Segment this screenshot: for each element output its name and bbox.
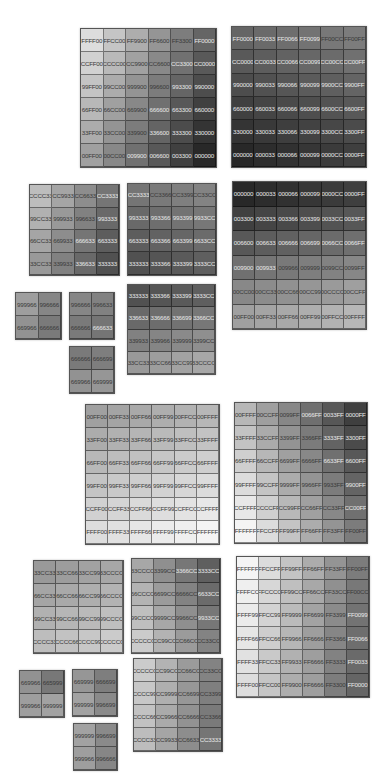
color-swatch: FF0033 — [347, 650, 369, 673]
color-swatch: FF3333 — [325, 650, 347, 673]
color-swatch: 99FFFF — [197, 474, 219, 497]
color-swatch: 3300CC — [321, 120, 343, 143]
color-swatch: 99FF66 — [130, 474, 152, 497]
color-swatch: FFFFFF — [197, 521, 219, 544]
color-swatch: 0000FF — [344, 144, 366, 167]
color-swatch: 6666FF — [301, 450, 323, 473]
color-swatch: 336633 — [128, 307, 150, 329]
color-swatch: CC3300 — [171, 52, 194, 75]
color-swatch: 66CC00 — [104, 98, 127, 121]
color-swatch: FF33FF — [323, 520, 345, 543]
color-swatch: CCFF00 — [86, 498, 108, 521]
color-swatch: 993333 — [97, 208, 119, 231]
color-swatch: 0066FF — [301, 403, 323, 426]
color-swatch: FFFF33 — [108, 521, 130, 544]
color-swatch: CCFFFF — [197, 498, 219, 521]
color-swatch: 999933 — [52, 208, 74, 231]
color-swatch: 0099CC — [322, 256, 344, 281]
color-swatch: 660099 — [299, 97, 321, 120]
color-swatch: CC33CC — [194, 184, 216, 207]
color-swatch: 996633 — [75, 208, 97, 231]
color-swatch: FF66FF — [303, 557, 325, 580]
swatch-grid-g1: FFFF00FFCC00FF9900FF6600FF3300FF0000CCFF… — [80, 28, 217, 168]
color-swatch: CCCC66 — [56, 630, 78, 653]
color-swatch: 00FF99 — [152, 405, 174, 428]
color-swatch: FFCC00 — [104, 29, 127, 52]
color-swatch: FF9900 — [126, 29, 149, 52]
color-swatch: 9900CC — [321, 74, 343, 97]
color-swatch: 00CC00 — [233, 280, 255, 305]
color-swatch: 999900 — [126, 75, 149, 98]
color-swatch: 003366 — [277, 207, 299, 232]
color-swatch: 00FFCC — [322, 305, 344, 330]
color-swatch: 333366 — [150, 252, 172, 275]
color-swatch: 6699FF — [279, 450, 301, 473]
color-swatch: 33CC99 — [79, 561, 101, 584]
swatch-grid-g13: 33CCCC3399CC3366CC3333CC66CCCC6699CC6666… — [131, 558, 221, 654]
color-swatch: 9933FF — [323, 473, 345, 496]
color-swatch: CC00CC — [321, 50, 343, 73]
color-swatch: 666633 — [92, 316, 114, 339]
color-swatch: CC0099 — [299, 50, 321, 73]
color-swatch: 006666 — [277, 231, 299, 256]
color-swatch: 339966 — [150, 330, 172, 352]
color-swatch: 00FF00 — [233, 305, 255, 330]
color-swatch: CC6633 — [178, 728, 200, 751]
color-swatch: FF0000 — [194, 29, 217, 52]
color-swatch: 00FFFF — [344, 305, 366, 330]
color-swatch: 666633 — [75, 230, 97, 253]
color-swatch: 330099 — [299, 120, 321, 143]
color-swatch: CC99CC — [154, 630, 176, 654]
color-swatch: FF6666 — [303, 627, 325, 650]
color-swatch: 003333 — [255, 207, 277, 232]
color-swatch: CCFF66 — [130, 498, 152, 521]
color-swatch: 3366FF — [301, 426, 323, 449]
color-swatch: 000000 — [233, 182, 255, 207]
color-swatch: 99FF99 — [152, 474, 174, 497]
color-swatch: 6633FF — [323, 450, 345, 473]
color-swatch: 336600 — [149, 121, 172, 144]
color-swatch: CCCC33 — [134, 728, 156, 751]
color-swatch: 990099 — [299, 74, 321, 97]
color-swatch: 99CC33 — [34, 607, 56, 630]
color-swatch: 336633 — [75, 253, 97, 276]
color-swatch: 66CC99 — [79, 584, 101, 607]
color-swatch: 6633CC — [194, 230, 216, 253]
color-swatch: CC00FF — [345, 496, 367, 519]
color-swatch: CC9933 — [52, 185, 74, 208]
color-swatch: 666699 — [92, 347, 114, 370]
color-swatch: CC66CC — [178, 659, 200, 682]
color-swatch: 660000 — [194, 98, 217, 121]
swatch-grid-g11: 00FFFF00CCFF0099FF0066FF0033FF0000FF33FF… — [234, 402, 368, 544]
color-swatch: 333399 — [172, 285, 194, 307]
color-swatch: FF00FF — [347, 557, 369, 580]
color-swatch: 006600 — [149, 144, 172, 167]
color-swatch: CC3366 — [150, 184, 172, 207]
color-swatch: 00FF66 — [130, 405, 152, 428]
color-swatch: FF0033 — [254, 27, 276, 50]
color-swatch: 330066 — [277, 120, 299, 143]
swatch-grid-g9: 666666666699669966669999 — [69, 346, 115, 394]
color-swatch: 999999 — [74, 724, 96, 747]
color-swatch: 33CC99 — [172, 352, 194, 374]
swatch-grid-g18: CCCCCCCC99CCCC66CCCC33CCCCCC99CC9999CC66… — [133, 658, 223, 752]
color-swatch: 330033 — [254, 120, 276, 143]
color-swatch: FF0066 — [347, 627, 369, 650]
color-swatch: 996600 — [149, 75, 172, 98]
color-swatch: 00CCFF — [257, 403, 279, 426]
color-swatch: 333300 — [171, 121, 194, 144]
color-swatch: CC0000 — [232, 50, 254, 73]
color-swatch: 993399 — [172, 207, 194, 230]
color-swatch: 9966CC — [176, 606, 198, 630]
color-swatch: 00FFCC — [175, 405, 197, 428]
color-swatch: CC33CC — [200, 659, 222, 682]
color-swatch: 669966 — [70, 370, 92, 393]
color-swatch: FF99FF — [281, 557, 303, 580]
color-swatch: 003300 — [233, 207, 255, 232]
color-swatch: 6666CC — [176, 583, 198, 607]
color-swatch: FF3399 — [325, 604, 347, 627]
color-swatch: 3300FF — [344, 120, 366, 143]
color-swatch: 000000 — [194, 144, 217, 167]
color-swatch: 0000FF — [345, 403, 367, 426]
color-swatch: 33CC33 — [128, 352, 150, 374]
